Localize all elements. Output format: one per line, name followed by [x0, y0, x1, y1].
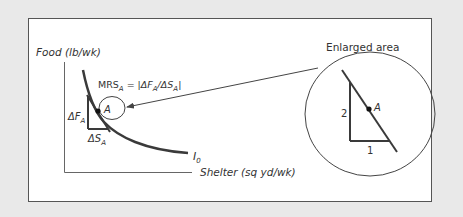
x-axis-label: Shelter (sq yd/wk): [200, 166, 296, 178]
run-label: 1: [367, 145, 373, 156]
y-axis-label: Food (lb/wk): [36, 46, 101, 58]
rise-label: 2: [341, 108, 347, 119]
enlarged-point-a-label: A: [373, 102, 381, 113]
enlarged-point-a-dot: [366, 106, 371, 111]
enlarged-area-title: Enlarged area: [326, 41, 399, 53]
point-a-label: A: [103, 104, 111, 115]
point-a-dot: [95, 108, 100, 113]
mrs-diagram: Food (lb/wk) Shelter (sq yd/wk) I0 A ΔFA…: [0, 0, 463, 217]
